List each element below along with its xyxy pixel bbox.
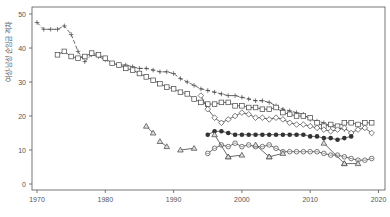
line-chart: 여성-남성 순임금 격차 01020304050 197019801990200… (0, 0, 390, 217)
x-tick-label: 2000 (234, 196, 250, 203)
series-layer (35, 20, 375, 165)
x-tick-label: 1990 (166, 196, 182, 203)
y-tick-label: 0 (22, 181, 26, 188)
y-tick-label: 10 (18, 147, 26, 154)
x-tick-label: 1970 (29, 196, 45, 203)
series-diamond (198, 93, 374, 136)
plot-frame (32, 7, 385, 190)
x-tick-label: 2020 (371, 196, 387, 203)
series-open-circle (205, 141, 374, 163)
y-axis-title: 여성-남성 순임금 격차 (4, 21, 13, 83)
x-tick-label: 2010 (302, 196, 318, 203)
y-tick-label: 20 (18, 113, 26, 120)
series-plus-dashed (35, 20, 347, 132)
series-triangle (143, 123, 360, 165)
x-tick-label: 1980 (98, 196, 114, 203)
y-tick-label: 50 (18, 11, 26, 18)
y-axis: 01020304050 (18, 11, 32, 188)
x-axis: 197019801990200020102020 (29, 190, 386, 203)
y-tick-label: 40 (18, 45, 26, 52)
y-axis-label: 여성-남성 순임금 격차 (4, 21, 13, 83)
y-tick-label: 30 (18, 79, 26, 86)
